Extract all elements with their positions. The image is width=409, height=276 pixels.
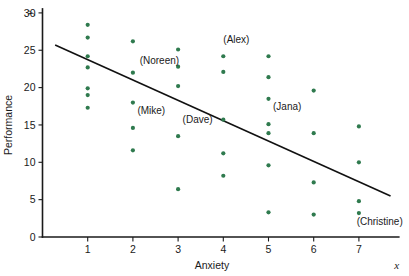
data-point (176, 84, 180, 88)
x-tick-label-6: 6 (311, 243, 317, 255)
data-point (86, 54, 90, 58)
y-tick-label-10: 10 (24, 156, 36, 168)
data-point (221, 151, 225, 155)
annotation-label: (Mike) (137, 105, 165, 116)
data-point (312, 180, 316, 184)
x-tick-label-7: 7 (356, 243, 362, 255)
x-axis-title: Anxiety (195, 259, 230, 271)
axis-tick-labels: 0510152025301234567 (24, 7, 362, 256)
data-point (312, 131, 316, 135)
annotation-label: (Jana) (273, 101, 301, 112)
data-point (357, 160, 361, 164)
y-tick-label-0: 0 (30, 231, 36, 243)
x-tick-label-4: 4 (220, 243, 226, 255)
data-point (221, 174, 225, 178)
y-tick-label-15: 15 (24, 119, 36, 131)
data-point (131, 148, 135, 152)
data-point (221, 54, 225, 58)
data-point (131, 100, 135, 104)
y-tick-label-20: 20 (24, 81, 36, 93)
data-point (357, 211, 361, 215)
data-point (86, 65, 90, 69)
annotation-label: (Christine) (357, 216, 403, 227)
axes (43, 9, 399, 237)
chart-canvas: 0510152025301234567 (Noreen)(Mike)(Dave)… (0, 0, 409, 276)
data-point (176, 187, 180, 191)
data-point (176, 47, 180, 51)
data-point (86, 106, 90, 110)
data-point (86, 35, 90, 39)
y-axis-title: Performance (2, 95, 14, 155)
data-point (176, 134, 180, 138)
data-point (266, 75, 270, 79)
axis-ticks (39, 13, 359, 242)
data-point (266, 131, 270, 135)
y-axis-variable-symbol: y (23, 10, 35, 16)
data-point (221, 118, 225, 122)
y-tick-label-25: 25 (24, 44, 36, 56)
annotation-label: (Alex) (223, 34, 249, 45)
data-point (357, 124, 361, 128)
x-tick-label-2: 2 (130, 243, 136, 255)
data-point (131, 126, 135, 130)
data-points (86, 23, 361, 217)
data-point (86, 23, 90, 27)
data-point (357, 199, 361, 203)
data-point (312, 212, 316, 216)
data-point (266, 97, 270, 101)
data-point (131, 71, 135, 75)
annotation-label: (Noreen) (140, 55, 179, 66)
data-point (86, 93, 90, 97)
data-point (312, 88, 316, 92)
data-point (131, 39, 135, 43)
data-point (221, 70, 225, 74)
data-point (266, 122, 270, 126)
x-tick-label-1: 1 (85, 243, 91, 255)
scatter-plot-figure: 0510152025301234567 (Noreen)(Mike)(Dave)… (0, 0, 409, 276)
x-axis-variable-symbol: x (393, 259, 399, 271)
data-point (266, 210, 270, 214)
point-annotations: (Noreen)(Mike)(Dave)(Alex)(Jana)(Christi… (137, 34, 402, 227)
axis-titles: AnxietyPerformancexy (2, 10, 399, 271)
x-tick-label-3: 3 (175, 243, 181, 255)
y-tick-label-5: 5 (30, 193, 36, 205)
data-point (86, 86, 90, 90)
x-tick-label-5: 5 (266, 243, 272, 255)
annotation-label: (Dave) (183, 114, 213, 125)
data-point (266, 54, 270, 58)
data-point (266, 163, 270, 167)
